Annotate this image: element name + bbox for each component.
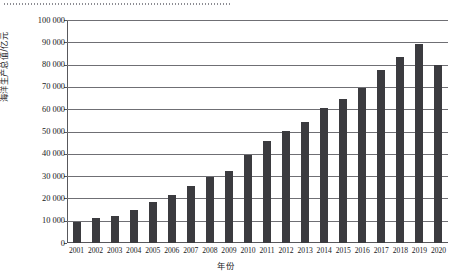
bar (168, 195, 176, 243)
bar-slot (429, 20, 448, 243)
x-axis-title: 年份 (0, 261, 451, 271)
bar-series (67, 20, 448, 243)
dotted-rule-artifact (4, 3, 232, 5)
y-tick-label: 40 000 (9, 149, 65, 158)
bar (111, 216, 119, 243)
bar (320, 108, 328, 243)
bar (73, 222, 81, 243)
y-tick-label: 0 (9, 239, 65, 248)
y-tick-label: 100 000 (9, 16, 65, 25)
bar-slot (296, 20, 315, 243)
bar (225, 171, 233, 243)
bar (434, 65, 442, 243)
bar (149, 202, 157, 243)
bar-slot (67, 20, 86, 243)
bar-slot (162, 20, 181, 243)
bar-slot (372, 20, 391, 243)
bar (130, 210, 138, 243)
bar-slot (105, 20, 124, 243)
bar-slot (124, 20, 143, 243)
bar-slot (353, 20, 372, 243)
bar-slot (219, 20, 238, 243)
bar (187, 186, 195, 243)
x-tick-label: 2020 (421, 246, 451, 255)
y-tick-label: 10 000 (9, 216, 65, 225)
bar (301, 122, 309, 243)
y-axis-title: 海洋生产总值/亿元 (0, 7, 9, 127)
plot-area: 010 00020 00030 00040 00050 00060 00070 … (67, 20, 448, 243)
bar-slot (391, 20, 410, 243)
bar (396, 57, 404, 243)
y-tick-label: 60 000 (9, 105, 65, 114)
bar-slot (143, 20, 162, 243)
bar (282, 131, 290, 243)
bar (339, 99, 347, 243)
ocean-gdp-bar-chart: 海洋生产总值/亿元 010 00020 00030 00040 00050 00… (0, 0, 451, 280)
bar (377, 70, 385, 243)
bar-slot (86, 20, 105, 243)
bar (358, 88, 366, 243)
bar (415, 44, 423, 243)
bar-slot (334, 20, 353, 243)
y-tick-label: 80 000 (9, 60, 65, 69)
bar (263, 141, 271, 243)
bar-slot (181, 20, 200, 243)
y-tick-label: 30 000 (9, 172, 65, 181)
bar (92, 218, 100, 243)
bar-slot (410, 20, 429, 243)
bar-slot (258, 20, 277, 243)
bar-slot (277, 20, 296, 243)
y-tick-label: 20 000 (9, 194, 65, 203)
bar-slot (315, 20, 334, 243)
y-tick-label: 70 000 (9, 82, 65, 91)
y-tick-label: 90 000 (9, 38, 65, 47)
y-tick-label: 50 000 (9, 127, 65, 136)
bar-slot (200, 20, 219, 243)
bar (206, 177, 214, 243)
bar-slot (238, 20, 257, 243)
bar (244, 155, 252, 243)
